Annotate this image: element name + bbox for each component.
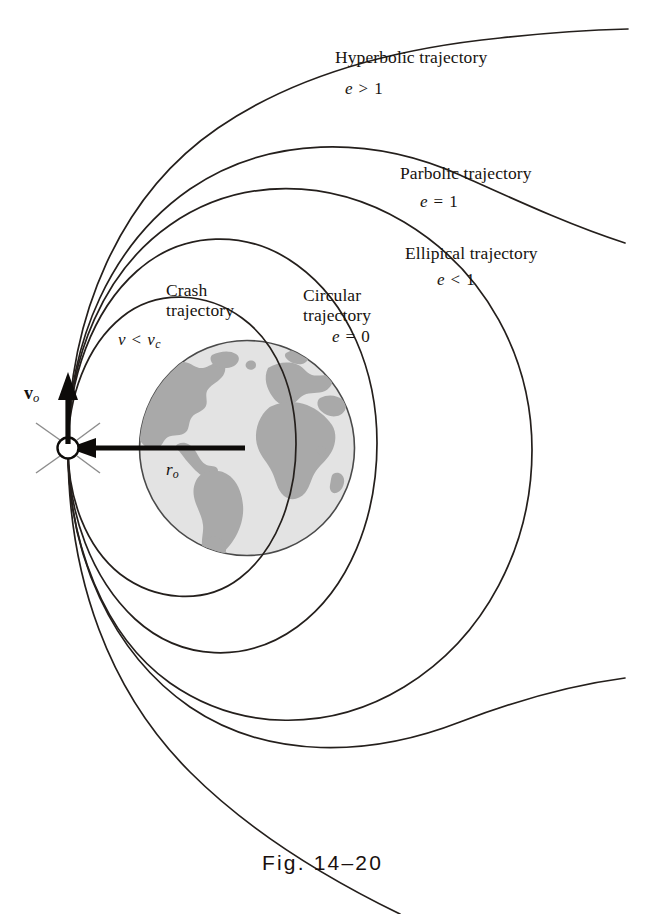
figure-caption: Fig. 14–20: [0, 851, 645, 875]
circular-ecc-value: 0: [361, 327, 370, 346]
crash-speed-symbol: v: [118, 330, 126, 349]
velocity-vector-symbol: v: [24, 383, 33, 403]
circular-ecc-symbol: e: [332, 327, 340, 346]
trajectory-diagram: [0, 0, 645, 914]
velocity-vector-subscript: o: [33, 391, 39, 405]
hyperbolic-ecc-symbol: e: [345, 79, 353, 98]
elliptical-ecc-symbol: e: [437, 270, 445, 289]
parabolic-ecc-operator: =: [433, 192, 445, 211]
crash-trajectory-label-line1: Crash: [166, 280, 234, 300]
hyperbolic-eccentricity-label: e > 1: [345, 79, 383, 99]
elliptical-trajectory-label: Ellipical trajectory: [405, 243, 538, 263]
circular-eccentricity-label: e = 0: [332, 327, 370, 347]
crash-speed-limit-subscript: c: [155, 337, 160, 351]
parabolic-ecc-value: 1: [449, 192, 458, 211]
circular-trajectory-label: Circular trajectory: [303, 285, 371, 326]
crash-speed-operator: <: [131, 330, 143, 349]
radius-subscript: o: [173, 467, 179, 481]
hyperbolic-ecc-value: 1: [374, 79, 383, 98]
parabolic-trajectory-label: Parbolic trajectory: [400, 163, 532, 183]
hyperbolic-trajectory-label: Hyperbolic trajectory: [335, 47, 487, 67]
elliptical-ecc-operator: <: [450, 270, 462, 289]
circular-trajectory-label-line1: Circular: [303, 285, 371, 305]
hyperbolic-ecc-operator: >: [358, 79, 370, 98]
circular-ecc-operator: =: [345, 327, 357, 346]
elliptical-ecc-value: 1: [466, 270, 475, 289]
parabolic-ecc-symbol: e: [420, 192, 428, 211]
radius-symbol: r: [166, 460, 173, 479]
radius-label: ro: [166, 460, 179, 482]
crash-speed-condition-label: v < vc: [118, 330, 161, 352]
crash-trajectory-label: Crash trajectory: [166, 280, 234, 321]
crash-trajectory-label-line2: trajectory: [166, 300, 234, 320]
figure-root: Hyperbolic trajectory e > 1 Parbolic tra…: [0, 0, 645, 914]
velocity-vector-label: vo: [24, 383, 39, 406]
elliptical-eccentricity-label: e < 1: [437, 270, 475, 290]
circular-trajectory-label-line2: trajectory: [303, 305, 371, 325]
parabolic-eccentricity-label: e = 1: [420, 192, 458, 212]
